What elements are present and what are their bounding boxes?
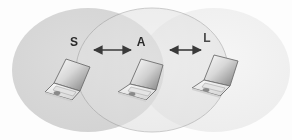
node-label-L: L xyxy=(203,31,210,45)
diagram-canvas: S A L xyxy=(0,0,292,140)
wireless-transmission-range-diagram: S A L xyxy=(0,0,292,140)
laptop-touchpad xyxy=(54,91,61,95)
node-label-A: A xyxy=(137,35,146,49)
node-label-S: S xyxy=(70,35,78,49)
